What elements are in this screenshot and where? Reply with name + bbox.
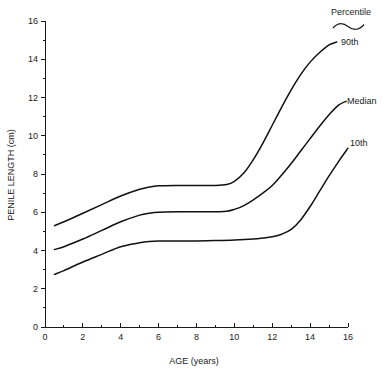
x-tick-label-2: 2 (80, 332, 85, 342)
y-tick-label-0: 0 (33, 322, 38, 332)
y-tick-label-14: 14 (28, 54, 38, 64)
x-tick-label-14: 14 (305, 332, 315, 342)
x-tick-label-16: 16 (343, 332, 353, 342)
penile-length-growth-chart: 0246810121416 0246810121416 AGE (years) … (0, 0, 387, 372)
x-axis-tick-labels: 0246810121416 (42, 332, 353, 342)
y-axis-title: PENILE LENGTH (cm) (6, 129, 16, 221)
series-label-median: Median (347, 96, 377, 106)
legend-title: Percentile (331, 7, 371, 17)
x-tick-label-8: 8 (194, 332, 199, 342)
x-tick-label-12: 12 (267, 332, 277, 342)
x-axis-ticks (45, 323, 348, 327)
y-tick-label-6: 6 (33, 207, 38, 217)
x-tick-label-4: 4 (118, 332, 123, 342)
x-tick-label-10: 10 (229, 332, 239, 342)
x-tick-label-6: 6 (156, 332, 161, 342)
series-label-10th: 10th (350, 138, 368, 148)
y-tick-label-12: 12 (28, 93, 38, 103)
legend-squiggle-brace (333, 24, 364, 30)
series-label-90th: 90th (341, 37, 359, 47)
x-tick-label-0: 0 (42, 332, 47, 342)
x-axis-title: AGE (years) (169, 356, 219, 366)
y-tick-label-8: 8 (33, 169, 38, 179)
data-curves (54, 42, 348, 274)
y-axis-tick-labels: 0246810121416 (28, 16, 38, 332)
curve-median (54, 101, 346, 249)
y-tick-label-10: 10 (28, 131, 38, 141)
y-tick-label-2: 2 (33, 284, 38, 294)
chart-canvas: 0246810121416 0246810121416 AGE (years) … (0, 0, 387, 372)
y-tick-label-16: 16 (28, 16, 38, 26)
y-axis-ticks (41, 21, 45, 327)
y-tick-label-4: 4 (33, 246, 38, 256)
axes-group (45, 21, 348, 327)
curve-90th (54, 42, 336, 226)
